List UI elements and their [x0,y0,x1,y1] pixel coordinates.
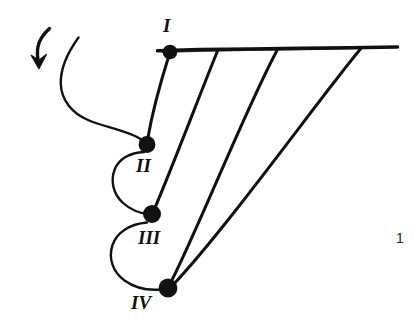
loop-outer-to-II [61,38,147,145]
node-label-IV: IV [131,293,151,312]
node-I [163,45,178,60]
node-label-II: II [136,156,151,175]
chord-bar-long [173,48,362,285]
chord-bar-to-IV [170,50,278,285]
node-label-I: I [163,16,170,35]
node-II [139,136,156,153]
node-IV [159,279,178,298]
chord-I-to-II [148,57,169,140]
curved-down-arrow-icon [31,29,49,69]
chord-lines-group [148,48,362,285]
node-III [143,205,161,223]
page-number: 1 [396,230,404,246]
loop-outer-path [61,38,147,145]
pendulum-cycloid-diagram [0,0,414,329]
node-label-III: III [138,228,160,247]
